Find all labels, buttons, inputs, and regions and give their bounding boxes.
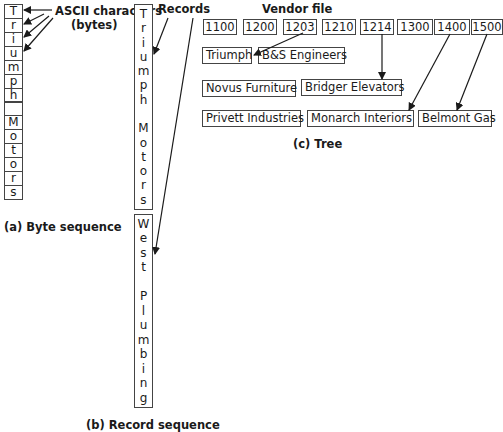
- byte-cell: r: [4, 18, 23, 33]
- node-privett-industries: Privett Industries: [202, 110, 301, 127]
- record-char: o: [135, 164, 152, 178]
- record-char: e: [135, 231, 152, 245]
- byte-cell: i: [4, 32, 23, 47]
- record-char: u: [135, 50, 152, 64]
- record-char: i: [135, 36, 152, 50]
- record-char: t: [135, 260, 152, 274]
- record-char: h: [135, 93, 152, 107]
- arrow-byte-i: [24, 16, 49, 37]
- key-1210: 1210: [322, 19, 356, 35]
- byte-cell: h: [4, 88, 23, 103]
- arrow-1500-belmont: [457, 34, 487, 110]
- record-char: r: [135, 178, 152, 192]
- record-char: p: [135, 78, 152, 92]
- key-1203: 1203: [283, 19, 317, 35]
- arrow-byte-r: [24, 14, 44, 24]
- record-char: b: [135, 347, 152, 361]
- key-1300: 1300: [397, 19, 433, 35]
- byte-cell: s: [4, 185, 23, 200]
- record-char: P: [135, 289, 152, 303]
- record-char: m: [135, 333, 152, 347]
- node-bs-engineers: B&S Engineers: [258, 47, 345, 64]
- byte-cell: u: [4, 46, 23, 61]
- byte-cell: r: [4, 171, 23, 186]
- key-1200: 1200: [243, 19, 277, 35]
- record-char: l: [135, 304, 152, 318]
- record-sequence-caption: (b) Record sequence: [86, 418, 220, 432]
- record-char: T: [135, 7, 152, 21]
- record-1: Triumph Motors: [134, 4, 153, 210]
- tree-caption: (c) Tree: [293, 137, 342, 151]
- node-triumph: Triumph: [202, 47, 252, 64]
- byte-cell: m: [4, 60, 23, 75]
- byte-cell: o: [4, 129, 23, 144]
- bytes-label: (bytes): [71, 18, 117, 32]
- record-char: s: [135, 246, 152, 260]
- key-1214: 1214: [360, 19, 394, 35]
- arrow-byte-u: [24, 18, 53, 51]
- node-bridger-elevators: Bridger Elevators: [301, 79, 402, 96]
- key-1500: 1500: [471, 19, 503, 35]
- node-monarch-interiors: Monarch Interiors: [307, 110, 414, 127]
- record-char: n: [135, 376, 152, 390]
- record-char: o: [135, 136, 152, 150]
- record-char: u: [135, 318, 152, 332]
- record-char: g: [135, 391, 152, 405]
- record-char: M: [135, 121, 152, 135]
- record-2: West Plumbing: [134, 214, 153, 408]
- record-char: m: [135, 64, 152, 78]
- arrow-record-1: [154, 18, 168, 54]
- byte-cell: [4, 102, 23, 117]
- byte-cell: o: [4, 157, 23, 172]
- byte-cell: t: [4, 143, 23, 158]
- byte-cell: M: [4, 115, 23, 130]
- byte-cell: T: [4, 4, 23, 19]
- arrow-record-2: [155, 18, 193, 254]
- arrow-1400-monarch: [409, 34, 450, 110]
- node-belmont-gas: Belmont Gas: [418, 110, 492, 127]
- record-char: s: [135, 193, 152, 207]
- record-char: t: [135, 150, 152, 164]
- node-novus-furniture: Novus Furniture: [202, 80, 296, 97]
- record-char: i: [135, 362, 152, 376]
- key-1100: 1100: [203, 19, 237, 35]
- key-1400: 1400: [434, 19, 470, 35]
- byte-cell: p: [4, 74, 23, 89]
- records-label: Records: [158, 2, 210, 16]
- record-char: r: [135, 21, 152, 35]
- vendor-file-title: Vendor file: [262, 2, 332, 16]
- byte-sequence-caption: (a) Byte sequence: [4, 220, 122, 234]
- record-char: W: [135, 217, 152, 231]
